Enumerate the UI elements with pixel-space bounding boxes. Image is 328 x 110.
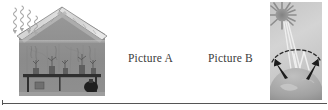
greenhouse-effect-figure-svg	[270, 2, 322, 100]
horizontal-rule	[2, 103, 327, 104]
greenhouse-effect-illustration	[270, 2, 322, 100]
eave-frame	[19, 40, 105, 43]
greenhouse-figure-svg	[11, 2, 113, 100]
greenhouse-illustration	[11, 2, 113, 100]
picture-b-label: Picture B	[208, 52, 253, 64]
page-root: Picture A Picture B	[0, 0, 328, 110]
greenhouse-floor	[19, 92, 105, 96]
picture-a-label: Picture A	[128, 52, 173, 64]
